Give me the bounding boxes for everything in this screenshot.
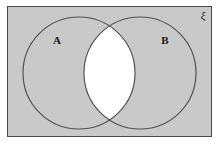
venn-diagram-canvas: A B ξ xyxy=(0,0,220,142)
set-b-label: B xyxy=(161,34,169,46)
set-a-label: A xyxy=(53,34,61,46)
xi-universal-set-symbol: ξ xyxy=(201,9,206,22)
venn-diagram-figure: A B ξ xyxy=(0,0,220,142)
